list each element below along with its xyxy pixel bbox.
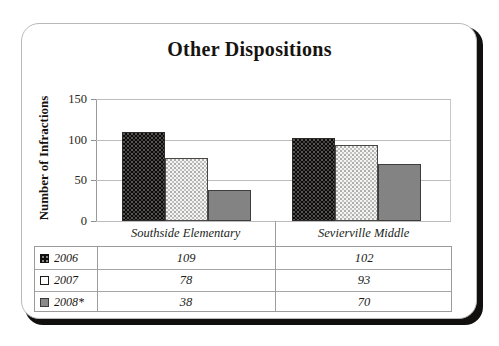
table-column-divider bbox=[97, 247, 98, 311]
legend-swatch-2007-icon bbox=[40, 276, 49, 285]
bar-2008-southside-elementary bbox=[208, 190, 251, 221]
table-column-divider bbox=[275, 247, 276, 311]
chart-screenshot: Other Dispositions Number of Infractions… bbox=[0, 0, 499, 346]
category-label: Sevierville Middle bbox=[275, 221, 452, 246]
legend-cell: 2007 bbox=[35, 270, 97, 291]
table-value: 102 bbox=[275, 247, 453, 269]
bar-2006-sevierville-middle bbox=[292, 138, 335, 221]
legend-swatch-2008-icon bbox=[40, 298, 49, 307]
bar-2008-sevierville-middle bbox=[378, 164, 421, 221]
category-divider bbox=[275, 221, 276, 246]
legend-swatch-2006-icon bbox=[40, 254, 49, 263]
table-value: 70 bbox=[275, 292, 453, 313]
legend-cell: 2006 bbox=[35, 247, 97, 269]
y-tick-label: 0 bbox=[81, 214, 87, 229]
bar-2006-southside-elementary bbox=[122, 132, 165, 221]
legend-label: 2006 bbox=[54, 251, 78, 266]
bar-2007-sevierville-middle bbox=[335, 145, 378, 221]
y-axis-title: Number of Infractions bbox=[36, 93, 52, 223]
legend-label: 2008* bbox=[54, 295, 84, 310]
category-label: Southside Elementary bbox=[96, 221, 275, 246]
chart-title: Other Dispositions bbox=[0, 38, 499, 61]
table-value: 78 bbox=[97, 270, 275, 291]
y-tick-mark bbox=[91, 140, 96, 141]
plot-area: 050100150 bbox=[96, 99, 451, 221]
y-tick-label: 50 bbox=[75, 173, 88, 188]
legend-label: 2007 bbox=[54, 273, 78, 288]
bar-2007-southside-elementary bbox=[165, 158, 208, 221]
table-value: 93 bbox=[275, 270, 453, 291]
y-tick-label: 100 bbox=[68, 132, 87, 147]
y-tick-mark bbox=[91, 99, 96, 100]
gridline bbox=[96, 99, 451, 100]
data-table: 2006109102200778932008*3870 bbox=[34, 246, 452, 312]
table-value: 38 bbox=[97, 292, 275, 313]
y-tick-mark bbox=[91, 180, 96, 181]
category-label-row: Southside ElementarySevierville Middle bbox=[96, 221, 452, 246]
y-axis-line bbox=[96, 99, 97, 221]
table-value: 109 bbox=[97, 247, 275, 269]
legend-cell: 2008* bbox=[35, 292, 97, 313]
y-tick-label: 150 bbox=[68, 92, 87, 107]
